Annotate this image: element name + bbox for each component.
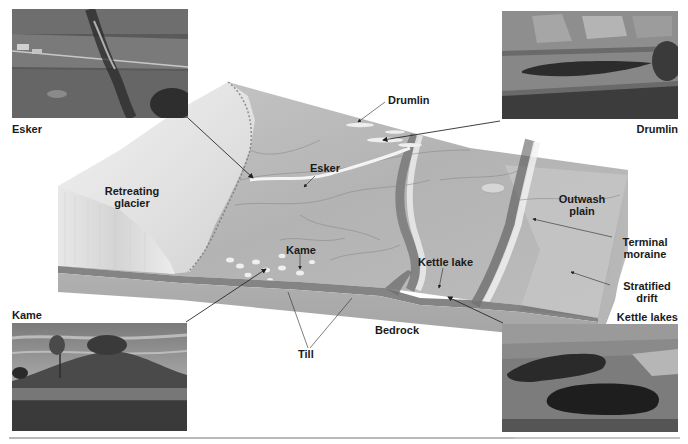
drumlin-photo bbox=[502, 11, 678, 119]
kettle-lakes-photo-caption: Kettle lakes bbox=[580, 311, 678, 323]
bottom-divider-right bbox=[514, 437, 680, 439]
drumlin-photo-caption: Drumlin bbox=[600, 123, 678, 135]
terminal-moraine-label: Terminal moraine bbox=[612, 236, 678, 260]
outwash-plain-label: Outwash plain bbox=[553, 193, 611, 217]
stratified-drift-label: Stratified drift bbox=[614, 280, 680, 304]
kettle-pond bbox=[481, 183, 505, 193]
kame-label: Kame bbox=[286, 244, 316, 256]
till-label: Till bbox=[298, 348, 314, 360]
kame-photo bbox=[12, 323, 187, 431]
glacial-landforms-diagram: Esker Drumlin bbox=[0, 0, 688, 444]
kettle-lakes-photo bbox=[502, 324, 678, 432]
esker-photo-caption: Esker bbox=[12, 123, 42, 135]
drumlin-label: Drumlin bbox=[388, 94, 430, 106]
kame-photo-caption: Kame bbox=[12, 309, 42, 321]
esker-label: Esker bbox=[310, 162, 340, 174]
retreating-glacier-label: Retreating glacier bbox=[100, 185, 164, 209]
bottom-divider bbox=[9, 437, 514, 439]
bedrock-label: Bedrock bbox=[375, 324, 419, 336]
kettle-lake-2 bbox=[547, 384, 659, 416]
kettle-lake-label: Kettle lake bbox=[418, 256, 473, 268]
esker-photo bbox=[12, 9, 188, 118]
